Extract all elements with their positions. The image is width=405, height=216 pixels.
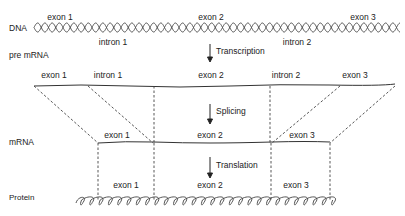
pre-mrna-exon2-label: exon 2 bbox=[198, 70, 224, 80]
step-arrows bbox=[208, 44, 213, 178]
dna-intron1-label: intron 1 bbox=[99, 37, 127, 47]
pre-mrna-exon3-label: exon 3 bbox=[342, 70, 368, 80]
step-translation: Translation bbox=[216, 160, 258, 170]
row-label-protein: Protein bbox=[9, 193, 34, 203]
dna-exon3-label: exon 3 bbox=[350, 12, 376, 22]
mrna-strand bbox=[98, 142, 330, 144]
pre-mrna-intron1-label: intron 1 bbox=[94, 70, 122, 80]
mrna-exon3-label: exon 3 bbox=[289, 130, 315, 140]
row-label-dna: DNA bbox=[9, 23, 27, 33]
dna-exon2-label: exon 2 bbox=[198, 12, 224, 22]
protein-exon2-label: exon 2 bbox=[197, 180, 223, 190]
row-label-mrna: mRNA bbox=[9, 137, 34, 147]
protein-helix bbox=[76, 197, 336, 205]
protein-exon3-label: exon 3 bbox=[283, 180, 309, 190]
pre-mrna-intron2-label: intron 2 bbox=[272, 70, 300, 80]
pre-mrna-exon1-label: exon 1 bbox=[41, 70, 67, 80]
mrna-exon1-label: exon 1 bbox=[104, 130, 130, 140]
protein-exon1-label: exon 1 bbox=[113, 180, 139, 190]
mrna-exon2-label: exon 2 bbox=[197, 130, 223, 140]
row-label-pre-mrna: pre mRNA bbox=[9, 50, 49, 60]
step-splicing: Splicing bbox=[216, 106, 246, 116]
step-transcription: Transcription bbox=[216, 46, 265, 56]
dna-helix bbox=[34, 23, 400, 32]
dna-intron2-label: intron 2 bbox=[283, 37, 311, 47]
dna-exon1-label: exon 1 bbox=[47, 12, 73, 22]
